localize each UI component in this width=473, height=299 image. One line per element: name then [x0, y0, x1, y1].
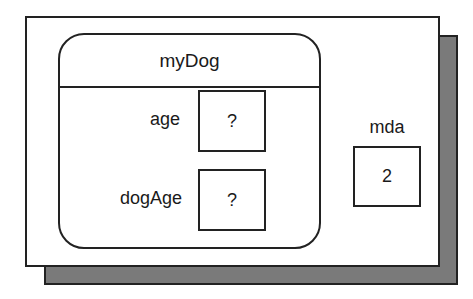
- field-value-age: ?: [198, 90, 266, 152]
- field-label-dogage: dogAge: [100, 188, 182, 209]
- object-mydog: myDog: [58, 33, 321, 249]
- object-name: myDog: [60, 35, 319, 88]
- variable-label-mda: mda: [353, 117, 421, 138]
- field-label-age: age: [110, 109, 180, 130]
- variable-value-mda: 2: [353, 146, 421, 207]
- field-value-dogage: ?: [198, 169, 266, 231]
